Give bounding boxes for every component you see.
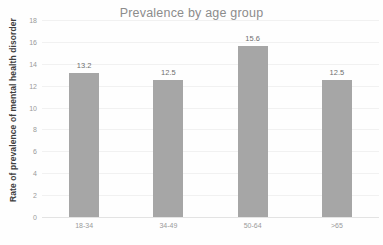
- y-axis-title: Rate of prevalence of mental health diso…: [8, 3, 18, 218]
- y-axis-tick-label: 18: [29, 17, 37, 24]
- y-axis-tick-label: 2: [33, 192, 37, 199]
- y-axis-tick-label: 12: [29, 82, 37, 89]
- bar-value-label: 15.6: [245, 34, 260, 43]
- x-axis-tick-label: 18-34: [75, 222, 93, 229]
- x-axis-labels: 18-3434-4950-64>65: [42, 222, 379, 236]
- bar-slot: 15.6: [211, 20, 295, 217]
- bar-chart: Prevalence by age group Rate of prevalen…: [0, 0, 383, 245]
- chart-title: Prevalence by age group: [0, 6, 383, 20]
- bar-value-label: 13.2: [77, 61, 92, 70]
- y-axis-tick-label: 16: [29, 38, 37, 45]
- bar-slot: 12.5: [126, 20, 210, 217]
- bar[interactable]: [238, 46, 268, 217]
- plot-area: 024681012141618 13.212.515.612.5: [42, 20, 379, 217]
- y-axis-tick-label: 0: [33, 214, 37, 221]
- bars-layer: 13.212.515.612.5: [42, 20, 379, 217]
- bar-value-label: 12.5: [330, 68, 345, 77]
- bar-value-label: 12.5: [161, 68, 176, 77]
- bar[interactable]: [69, 73, 99, 217]
- x-axis-tick-label: >65: [331, 222, 343, 229]
- bar-slot: 12.5: [295, 20, 379, 217]
- bar[interactable]: [153, 80, 183, 217]
- x-axis-tick-label: 50-64: [244, 222, 262, 229]
- y-axis-tick-label: 14: [29, 60, 37, 67]
- y-axis-tick-label: 10: [29, 104, 37, 111]
- y-axis-tick-label: 4: [33, 170, 37, 177]
- bar-slot: 13.2: [42, 20, 126, 217]
- y-axis-tick-label: 6: [33, 148, 37, 155]
- x-axis-tick-label: 34-49: [159, 222, 177, 229]
- bar[interactable]: [322, 80, 352, 217]
- y-axis-tick-label: 8: [33, 126, 37, 133]
- gridline: 0: [42, 217, 379, 218]
